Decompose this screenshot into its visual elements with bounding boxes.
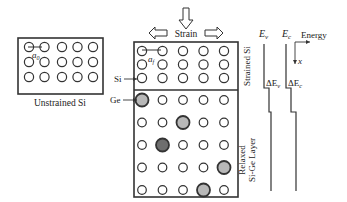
si-atom xyxy=(57,57,66,66)
si-atom xyxy=(179,141,188,150)
x-arrow-icon xyxy=(293,60,297,64)
si-pointer-label: Si xyxy=(114,74,122,84)
si-atom xyxy=(220,141,229,150)
si-atom xyxy=(137,60,146,69)
delta-ec-label: ΔEc xyxy=(288,78,302,89)
si-atom xyxy=(199,118,208,127)
ge-pointer-label: Ge xyxy=(110,95,121,105)
ec-label: Ec xyxy=(281,28,292,41)
down-arrow-icon xyxy=(179,8,193,29)
si-atom xyxy=(199,73,208,82)
valence-band-line xyxy=(264,44,271,191)
si-atom xyxy=(219,46,228,55)
si-atom xyxy=(179,96,188,105)
si-atom xyxy=(219,60,228,69)
right-arrow-icon xyxy=(205,27,223,39)
ge-atom xyxy=(177,116,190,129)
si-atom xyxy=(158,163,167,172)
left-arrow-icon xyxy=(149,27,167,39)
si-atom xyxy=(199,96,208,105)
af-label: af xyxy=(148,54,156,65)
si-atom xyxy=(158,186,167,195)
si-atom xyxy=(178,46,187,55)
unstrained-si-label: Unstrained Si xyxy=(34,98,86,108)
band-diagram: Ev Ec Energy x ΔEv ΔEc xyxy=(258,28,327,191)
si-atom xyxy=(40,72,49,81)
energy-label: Energy xyxy=(301,30,327,40)
si-atom xyxy=(57,72,66,81)
a0-label: a0 xyxy=(32,50,40,61)
si-atom xyxy=(158,73,167,82)
si-atom xyxy=(57,42,66,51)
strained-si-label: Strained Si xyxy=(242,46,252,86)
si-atom xyxy=(158,46,167,55)
si-atom xyxy=(178,73,187,82)
ge-atom xyxy=(197,184,210,197)
si-atom xyxy=(199,163,208,172)
si-atom xyxy=(158,118,167,127)
si-atom xyxy=(88,57,97,66)
energy-arrow-icon xyxy=(306,40,310,44)
si-atom xyxy=(88,72,97,81)
si-atom xyxy=(158,96,167,105)
delta-ev-label: ΔEv xyxy=(266,78,280,89)
ge-atom xyxy=(156,139,169,152)
strained-structure: af Si Ge Strained Si Relaxed Si-Ge Layer xyxy=(110,42,257,197)
si-atom xyxy=(179,186,188,195)
si-atom xyxy=(158,60,167,69)
si-atom xyxy=(40,57,49,66)
si-atom xyxy=(220,96,229,105)
si-atom xyxy=(138,118,147,127)
si-atom xyxy=(24,72,33,81)
si-atom xyxy=(220,118,229,127)
relaxed-label: Relaxed xyxy=(237,145,247,175)
si-atom xyxy=(138,163,147,172)
si-atom xyxy=(179,163,188,172)
ge-atom xyxy=(218,161,231,174)
si-atom xyxy=(220,186,229,195)
si-atom xyxy=(199,60,208,69)
x-label: x xyxy=(297,56,302,66)
relaxed-sige-atom-grid xyxy=(136,94,231,197)
unstrained-si-panel: a0 Unstrained Si xyxy=(18,38,103,108)
si-atom xyxy=(178,60,187,69)
si-atom xyxy=(138,186,147,195)
si-atom xyxy=(88,42,97,51)
strain-indicator: Strain xyxy=(149,8,223,39)
unstrained-atom-grid xyxy=(24,42,97,81)
si-atom xyxy=(199,141,208,150)
si-atom xyxy=(73,72,82,81)
ev-label: Ev xyxy=(258,28,269,41)
si-atom xyxy=(219,73,228,82)
si-atom xyxy=(73,57,82,66)
sige-layer-label: Si-Ge Layer xyxy=(247,138,257,182)
conduction-band-line xyxy=(286,44,296,191)
strain-label: Strain xyxy=(175,29,198,39)
strained-si-diagram: a0 Unstrained Si Strain af Si Ge Straine… xyxy=(0,0,347,202)
si-atom xyxy=(137,46,146,55)
si-atom xyxy=(73,42,82,51)
ge-atom xyxy=(136,94,149,107)
strained-si-atom-grid xyxy=(137,46,228,82)
si-pointer-arrow-icon xyxy=(133,77,137,81)
si-atom xyxy=(138,141,147,150)
si-atom xyxy=(199,46,208,55)
si-atom xyxy=(137,73,146,82)
